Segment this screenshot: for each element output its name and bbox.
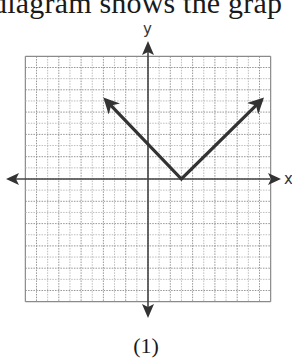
figure-caption: (1) [0,333,292,359]
y-axis-label: y [143,20,152,38]
x-axis-label: x [284,170,292,188]
coordinate-graph: x y [0,0,292,363]
x-axis [6,173,281,185]
